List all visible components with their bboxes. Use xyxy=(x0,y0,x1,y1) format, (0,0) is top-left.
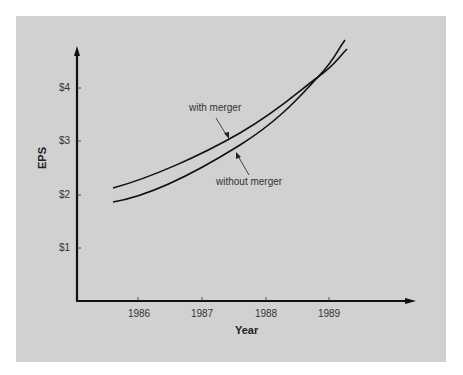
y-tick-label: $1 xyxy=(40,242,70,253)
annotation-with-merger: with merger xyxy=(189,102,241,113)
x-axis-arrow-icon xyxy=(405,298,416,304)
annotation-arrow-with-merger xyxy=(216,118,229,139)
x-axis-title: Year xyxy=(235,324,258,336)
series-with-merger xyxy=(113,49,347,188)
x-tick-label: 1989 xyxy=(309,308,349,319)
chart-plot xyxy=(0,0,463,375)
y-axis-arrow-icon xyxy=(74,46,80,56)
annotation-arrow-without-merger xyxy=(236,152,249,175)
x-tick-label: 1987 xyxy=(182,308,222,319)
y-axis-title: EPS xyxy=(36,147,48,169)
annotation-without-merger: without merger xyxy=(216,176,282,187)
y-tick-label: $2 xyxy=(40,189,70,200)
x-tick-label: 1988 xyxy=(246,308,286,319)
y-tick-label: $4 xyxy=(40,82,70,93)
x-tick-label: 1986 xyxy=(119,308,159,319)
y-tick-label: $3 xyxy=(40,135,70,146)
